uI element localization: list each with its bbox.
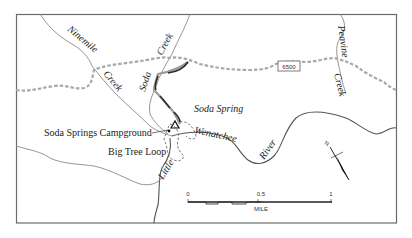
soda-spring-label: Soda Spring xyxy=(194,103,243,114)
little-label: Little xyxy=(155,157,176,182)
north-arrow-icon xyxy=(330,147,349,180)
soda-creek xyxy=(149,14,190,134)
map-canvas: 6500 Ninemile Creek Soda Creek Peavine C… xyxy=(0,0,412,238)
river-label: River xyxy=(256,137,278,162)
ninemile-label: Ninemile xyxy=(65,22,101,55)
big-tree-loop-label: Big Tree Loop xyxy=(108,146,166,157)
road-number-label: 6500 xyxy=(282,64,296,70)
soda-creek-label: Creek xyxy=(154,31,175,57)
scale-tick-0: 0 xyxy=(186,191,190,197)
soda-label: Soda xyxy=(136,70,153,92)
campground-label: Soda Springs Campground xyxy=(44,127,152,138)
wenatchee-label: Wenatchee xyxy=(194,124,239,144)
big-tree-loop-trail xyxy=(164,124,184,161)
peavine-label: Peavine xyxy=(336,24,352,59)
scale-tick-half: 0.5 xyxy=(257,191,266,197)
scale-bar xyxy=(188,199,332,204)
ninemile-creek-label: Creek xyxy=(101,68,125,94)
soda-spring-trail-grey xyxy=(154,62,188,124)
wenatchee-river xyxy=(172,112,396,164)
scale-unit-label: MILE xyxy=(254,206,268,212)
scale-tick-1: 1 xyxy=(329,191,333,197)
north-arrow-label: N xyxy=(324,140,331,147)
peavine-creek-label: Creek xyxy=(332,72,348,98)
